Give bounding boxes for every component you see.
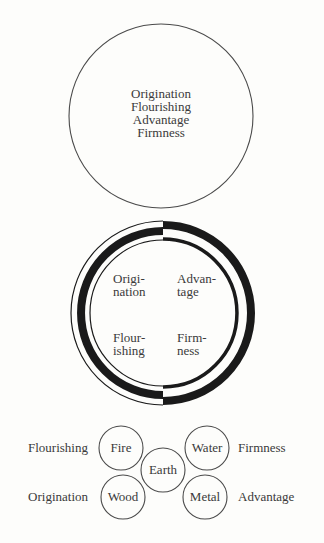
fire-label: Fire (111, 440, 132, 455)
quadrant-advantage-line2: tage (177, 284, 199, 299)
unity-label-firmness: Firmness (137, 125, 185, 140)
five-phases-group: Fire Water Earth Wood Metal Flourishing … (28, 426, 295, 519)
metal-side-label: Advantage (238, 489, 295, 504)
diagram-canvas: Origination Flourishing Advantage Firmne… (0, 0, 324, 543)
water-side-label: Firmness (238, 440, 286, 455)
quadrant-flourishing-line2: ishing (113, 343, 145, 358)
left-black-band (81, 231, 163, 395)
wood-side-label: Origination (28, 489, 88, 504)
water-label: Water (192, 440, 223, 455)
quadrant-firmness-line2: ness (177, 343, 199, 358)
earth-label: Earth (149, 462, 178, 477)
quadrant-origination-line2: nation (113, 284, 146, 299)
yin-yang-ring-group: Origi- nation Advan- tage Flour- ishing … (71, 221, 251, 405)
fire-side-label: Flourishing (28, 440, 88, 455)
wood-label: Wood (108, 489, 139, 504)
unity-circle-group: Origination Flourishing Advantage Firmne… (69, 24, 253, 208)
metal-label: Metal (190, 489, 221, 504)
right-inner-band (163, 239, 237, 387)
